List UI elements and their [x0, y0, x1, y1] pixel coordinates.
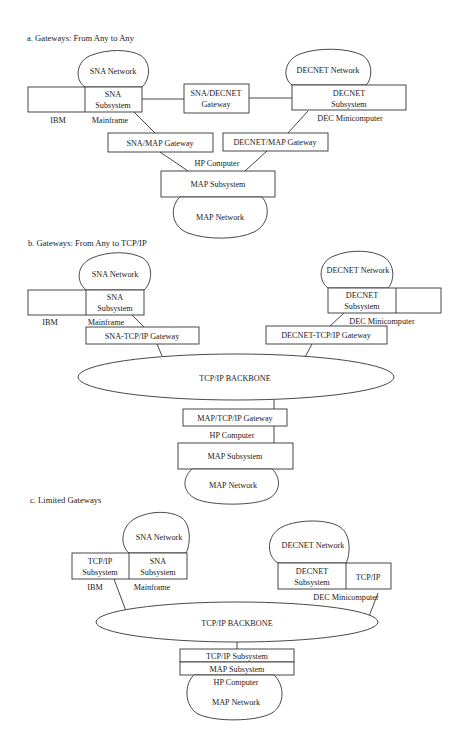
ibm-label: IBM [87, 583, 103, 592]
mainframe-label: Mainframe [92, 116, 129, 125]
sna-subsystem-label-2: Subsystem [95, 101, 131, 110]
ibm-label: IBM [42, 318, 58, 327]
decnet-network-label: DECNET Network [327, 266, 391, 275]
sna-decnet-gateway-label-1: SNA/DECNET [191, 89, 242, 98]
dec-minicomputer-label: DEC Minicomputer [349, 317, 415, 326]
sna-subsystem-label-2: Subsystem [140, 568, 176, 577]
section-a: a. Gateways: From Any to Any SNA Network… [27, 33, 406, 238]
decnet-subsystem-label-2: Subsystem [294, 578, 330, 587]
map-subsystem-label: MAP Subsystem [210, 665, 266, 674]
decnet-network-label: DECNET Network [297, 66, 361, 75]
map-subsystem-label: MAP Subsystem [208, 452, 264, 461]
section-b: b. Gateways: From Any to TCP/IP SNA Netw… [28, 238, 441, 504]
decnet-tcpip-gateway-label: DECNET-TCP/IP Gateway [281, 331, 372, 340]
section-b-title: b. Gateways: From Any to TCP/IP [28, 238, 147, 248]
mainframe-label: Mainframe [134, 583, 171, 592]
decnet-subsystem-label-2: Subsystem [344, 302, 380, 311]
decnet-subsystem-label-1: DECNET [296, 567, 328, 576]
map-network-label: MAP Network [212, 698, 261, 707]
sna-map-gateway-label: SNA/MAP Gateway [126, 139, 194, 148]
tcpip-subsystem-label: TCP/IP Subsystem [206, 652, 268, 661]
hp-computer-label: HP Computer [214, 678, 259, 687]
hp-computer-label: HP Computer [195, 159, 240, 168]
gateway-diagram: a. Gateways: From Any to Any SNA Network… [0, 0, 464, 740]
tcpip-subsystem-label-2: Subsystem [82, 568, 118, 577]
tcpip-label: TCP/IP [356, 573, 381, 582]
decnet-subsystem-label-1: DECNET [333, 89, 365, 98]
sna-network-label: SNA Network [136, 533, 184, 542]
sna-subsystem-label-1: SNA [150, 557, 166, 566]
section-a-title: a. Gateways: From Any to Any [27, 33, 135, 43]
map-network-label: MAP Network [196, 213, 245, 222]
sna-decnet-gateway-label-2: Gateway [201, 100, 231, 109]
tcpip-backbone-label: TCP/IP BACKBONE [201, 619, 272, 628]
decnet-subsystem-label-2: Subsystem [331, 100, 367, 109]
decnet-network-label: DECNET Network [282, 541, 346, 550]
map-subsystem-label: MAP Subsystem [191, 180, 247, 189]
dec-minicomputer-label: DEC Minicomputer [313, 593, 379, 602]
mainframe-label: Mainframe [88, 318, 125, 327]
sna-tcpip-gateway-label: SNA-TCP/IP Gateway [105, 332, 180, 341]
sna-network-label: SNA Network [92, 270, 140, 279]
hp-computer-label: HP Computer [210, 431, 255, 440]
tcpip-subsystem-label-1: TCP/IP [88, 557, 113, 566]
section-c-title: c. Limited Gateways [30, 495, 102, 505]
sna-subsystem-label-1: SNA [107, 293, 123, 302]
map-tcpip-gateway-label: MAP/TCP/IP Gateway [197, 414, 273, 423]
sna-subsystem-label-2: Subsystem [97, 304, 133, 313]
tcpip-backbone-label: TCP/IP BACKBONE [199, 374, 270, 383]
dec-minicomputer-label: DEC Minicomputer [317, 114, 383, 123]
sna-subsystem-label-1: SNA [105, 90, 121, 99]
ibm-label: IBM [50, 116, 66, 125]
sna-network-label: SNA Network [90, 67, 138, 76]
decnet-subsystem-label-1: DECNET [346, 291, 378, 300]
map-network-label: MAP Network [209, 481, 258, 490]
decnet-map-gateway-label: DECNET/MAP Gateway [233, 138, 317, 147]
section-c: c. Limited Gateways SNA Network TCP/IP S… [30, 495, 391, 720]
